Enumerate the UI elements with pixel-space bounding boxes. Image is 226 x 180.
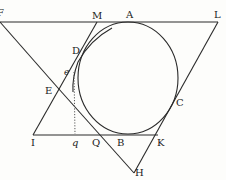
label-F: F [0, 8, 4, 18]
line-EH [58, 88, 134, 173]
label-e: e [64, 68, 69, 77]
label-L: L [214, 10, 221, 20]
dotted-line-eq [74, 72, 75, 134]
label-H: H [135, 168, 144, 178]
label-Q: Q [92, 138, 100, 148]
label-M: M [92, 11, 102, 21]
line-FE [0, 22, 58, 88]
label-A: A [126, 10, 133, 20]
circle [78, 22, 178, 134]
diagram-figure [0, 0, 226, 180]
label-D: D [72, 46, 80, 56]
line-MI [33, 22, 97, 135]
curve-arc [73, 28, 112, 92]
label-q: q [72, 138, 78, 148]
label-C: C [176, 98, 184, 108]
geometry-diagram: F M A L D e E C I q Q B K H [0, 0, 226, 180]
label-B: B [117, 138, 124, 148]
label-I: I [31, 138, 35, 148]
label-K: K [157, 138, 164, 148]
label-E: E [45, 86, 52, 96]
